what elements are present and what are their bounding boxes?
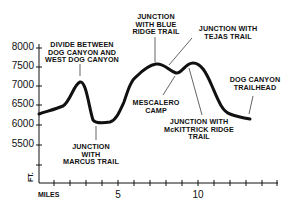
annotation-blue-ridge: JUNCTION WITH BLUE RIDGE TRAIL: [128, 13, 184, 36]
y-tick-7500: 7500: [0, 60, 34, 71]
y-tick-6500: 6500: [0, 98, 34, 109]
y-tick-8000: 8000: [0, 41, 34, 52]
y-tick-6000: 6000: [0, 118, 34, 129]
x-axis-label: MILES: [38, 191, 59, 198]
annotation-tejas-trail: JUNCTION WITH TEJAS TRAIL: [195, 25, 261, 40]
annotation-dog-canyon-trailhead: DOG CANYON TRAILHEAD: [226, 76, 284, 91]
annotation-mckittrick-ridge: JUNCTION WITH McKITTRICK RIDGE TRAIL: [158, 118, 240, 141]
y-tick-5500: 5500: [0, 138, 34, 149]
annotation-divide: DIVIDE BETWEEN DOG CANYON AND WEST DOG C…: [44, 41, 120, 64]
y-axis-label: FT.: [27, 172, 34, 182]
annotation-mescalero-camp: MESCALERO CAMP: [128, 99, 184, 114]
x-tick-5: 5: [108, 189, 128, 200]
y-tick-7000: 7000: [0, 79, 34, 90]
annotation-marcus-trail: JUNCTION WITH MARCUS TRAIL: [60, 143, 122, 166]
x-tick-10: 10: [188, 189, 208, 200]
